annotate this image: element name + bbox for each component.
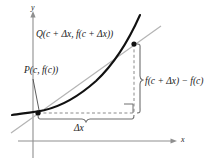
delta-x-label: Δx — [74, 124, 84, 134]
point-p-marker — [35, 110, 40, 115]
point-q-marker — [131, 41, 136, 46]
y-axis — [30, 11, 35, 158]
x-axis-label: x — [181, 136, 185, 144]
difference-brace — [137, 44, 143, 113]
point-q-label: Q(c + Δx, f(c + Δx)) — [36, 30, 113, 40]
right-angle-marker — [124, 104, 133, 113]
delta-x-brace — [38, 115, 134, 122]
y-axis-label: y — [31, 4, 35, 12]
x-axis — [18, 138, 177, 143]
p-label-leader-line — [33, 79, 39, 110]
point-p-label: P(c, f(c)) — [24, 66, 58, 76]
secant-line-diagram: y x Q(c + Δx, f(c + Δx)) P(c, f(c)) Δx f… — [0, 0, 218, 167]
difference-label: f(c + Δx) − f(c) — [145, 77, 203, 87]
